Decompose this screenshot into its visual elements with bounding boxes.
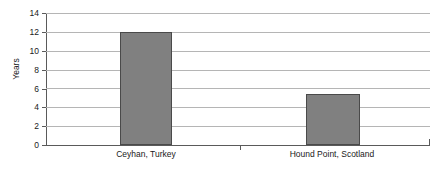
gridline-12 [46, 32, 430, 33]
x-axis-line [46, 145, 430, 146]
bar-chart: Years 14 12 10 8 6 4 2 0 Ceyhan, Turkey … [0, 0, 448, 174]
y-tick-label-0: 0 [22, 141, 39, 150]
category-label-ceyhan-turkey: Ceyhan, Turkey [76, 150, 216, 159]
gridline-8 [46, 70, 430, 71]
bar-hound-point-scotland [306, 94, 360, 145]
category-separator-tick [240, 145, 241, 150]
gridline-4 [46, 107, 430, 108]
category-label-hound-point-scotland: Hound Point, Scotland [252, 150, 412, 159]
plot-area [46, 13, 430, 145]
y-axis-title: Years [11, 45, 21, 93]
y-tick-label-10: 10 [22, 47, 39, 56]
gridline-10 [46, 51, 430, 52]
y-tick-label-6: 6 [22, 85, 39, 94]
y-tick-label-12: 12 [22, 28, 39, 37]
y-tick-label-8: 8 [22, 66, 39, 75]
y-tick-label-2: 2 [22, 122, 39, 131]
bar-ceyhan-turkey [120, 32, 172, 145]
y-tick-label-4: 4 [22, 103, 39, 112]
gridline-6 [46, 88, 430, 89]
gridline-14 [46, 13, 430, 14]
gridline-2 [46, 126, 430, 127]
y-tick-label-14: 14 [22, 9, 39, 18]
